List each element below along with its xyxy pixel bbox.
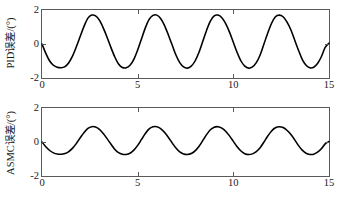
plot-area-pid: 2 0 -2 0 5 10 15 — [41, 9, 330, 79]
y-tick-label-asmc-0: 0 — [34, 137, 39, 148]
x-tick-mark-pid-10 — [233, 74, 234, 78]
y-tick-label-pid-0: 0 — [34, 39, 39, 50]
y-tick-label-asmc-neg2: -2 — [30, 171, 39, 182]
plot-area-asmc: 2 0 -2 0 5 10 15 — [41, 107, 330, 177]
y-tick-mark-asmc-0 — [42, 142, 46, 143]
x-tick-label-asmc-15: 15 — [324, 178, 335, 189]
pid-error-curve — [42, 15, 329, 68]
x-tick-mark-top-asmc-5 — [138, 108, 139, 112]
figure-canvas: PID误差/(°) 2 0 -2 0 5 10 15 ASMC误差/(°) — [0, 0, 343, 203]
y-axis-label-asmc: ASMC误差/(°) — [2, 98, 18, 188]
y-tick-label-pid-neg2: -2 — [30, 73, 39, 84]
y-tick-label-asmc-2: 2 — [34, 103, 39, 114]
x-tick-label-asmc-10: 10 — [228, 178, 239, 189]
x-tick-mark-top-pid-5 — [138, 10, 139, 14]
y-tick-mark-pid-0 — [42, 44, 46, 45]
x-tick-label-pid-5: 5 — [135, 80, 140, 91]
x-tick-label-pid-15: 15 — [324, 80, 335, 91]
asmc-error-curve-svg — [42, 108, 329, 176]
y-tick-mark-right-asmc-0 — [325, 142, 329, 143]
x-tick-mark-top-pid-10 — [233, 10, 234, 14]
x-tick-label-asmc-5: 5 — [135, 178, 140, 189]
asmc-error-curve — [42, 127, 329, 155]
x-tick-label-asmc-0: 0 — [39, 178, 44, 189]
x-tick-mark-top-asmc-10 — [233, 108, 234, 112]
y-tick-label-pid-2: 2 — [34, 5, 39, 16]
x-tick-mark-asmc-5 — [138, 172, 139, 176]
pid-error-curve-svg — [42, 10, 329, 78]
x-tick-label-pid-0: 0 — [39, 80, 44, 91]
x-tick-mark-pid-5 — [138, 74, 139, 78]
x-tick-mark-asmc-10 — [233, 172, 234, 176]
subplot-pid-error: PID误差/(°) 2 0 -2 0 5 10 15 — [0, 0, 343, 100]
y-axis-label-pid: PID误差/(°) — [2, 0, 18, 88]
x-tick-label-pid-10: 10 — [228, 80, 239, 91]
y-tick-mark-right-pid-0 — [325, 44, 329, 45]
subplot-asmc-error: ASMC误差/(°) 2 0 -2 0 5 10 15 — [0, 100, 343, 203]
